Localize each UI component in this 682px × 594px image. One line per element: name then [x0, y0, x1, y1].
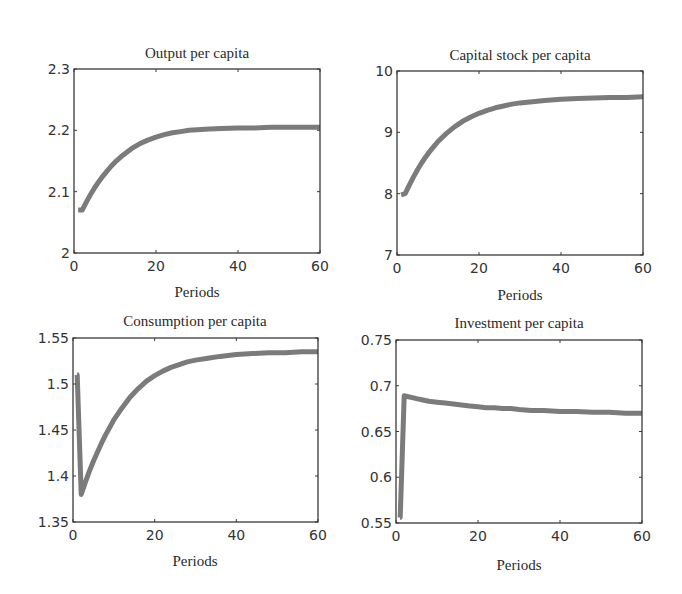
figure-background	[0, 0, 682, 594]
y-tick-label: 9	[384, 124, 393, 140]
x-tick-label: 60	[311, 258, 329, 274]
x-axis-label: Periods	[497, 557, 542, 573]
subplot-title: Consumption per capita	[123, 313, 267, 329]
x-tick-label: 40	[229, 258, 247, 274]
x-tick-label: 20	[469, 528, 487, 544]
x-tick-label: 0	[392, 528, 401, 544]
y-tick-label: 0.7	[370, 378, 392, 394]
y-tick-label: 0.65	[361, 424, 392, 440]
y-tick-label: 2.1	[48, 184, 70, 200]
x-axis-label: Periods	[173, 553, 218, 569]
y-tick-label: 2.3	[48, 61, 70, 77]
y-tick-label: 2.2	[48, 122, 70, 138]
x-tick-label: 60	[634, 260, 652, 276]
y-tick-label: 10	[375, 63, 393, 79]
x-tick-label: 40	[551, 528, 569, 544]
x-tick-label: 40	[227, 527, 245, 543]
subplot-title: Investment per capita	[454, 315, 583, 331]
y-tick-label: 0.75	[361, 332, 392, 348]
y-tick-label: 8	[384, 186, 393, 202]
y-tick-label: 1.45	[38, 422, 69, 438]
x-tick-label: 0	[69, 527, 78, 543]
x-tick-label: 60	[633, 528, 651, 544]
y-tick-label: 0.55	[361, 515, 392, 531]
x-axis-label: Periods	[175, 284, 220, 300]
y-tick-label: 2	[61, 245, 70, 261]
x-tick-label: 0	[393, 260, 402, 276]
y-tick-label: 1.35	[38, 514, 69, 530]
subplot-title: Output per capita	[145, 45, 249, 61]
y-tick-label: 1.55	[38, 330, 69, 346]
x-tick-label: 0	[70, 258, 79, 274]
y-tick-label: 0.6	[370, 469, 392, 485]
subplot-title: Capital stock per capita	[449, 47, 591, 63]
x-tick-label: 40	[552, 260, 570, 276]
figure: Output per capita 020406022.12.22.3 Peri…	[0, 0, 682, 594]
x-tick-label: 60	[309, 527, 327, 543]
y-tick-label: 1.5	[47, 376, 69, 392]
x-axis-label: Periods	[498, 287, 543, 303]
y-tick-label: 1.4	[47, 468, 69, 484]
y-tick-label: 7	[384, 247, 393, 263]
x-tick-label: 20	[146, 527, 164, 543]
x-tick-label: 20	[147, 258, 165, 274]
x-tick-label: 20	[470, 260, 488, 276]
